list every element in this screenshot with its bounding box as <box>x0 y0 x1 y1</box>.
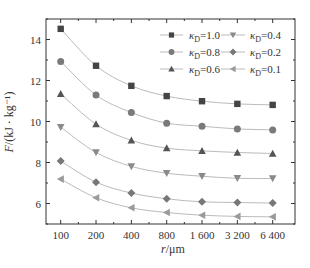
y-tick-label: 8 <box>36 157 42 169</box>
x-tick-label: 800 <box>158 229 175 241</box>
circle-marker-icon <box>93 92 100 99</box>
square-marker-icon <box>169 32 174 37</box>
series-markers <box>57 26 277 221</box>
circle-marker-icon <box>199 123 206 130</box>
legend: κD=1.0κD=0.8κD=0.6κD=0.4κD=0.2κD=0.1 <box>160 29 282 78</box>
x-tick-label: 100 <box>52 229 69 241</box>
x-tick-label: 3 200 <box>225 229 250 241</box>
legend-item: κD=0.2 <box>221 46 281 61</box>
legend-label: κD=0.8 <box>189 46 221 61</box>
triangle-left-marker-icon <box>163 209 170 217</box>
legend-label: κD=1.0 <box>189 29 221 44</box>
triangle-up-marker-icon <box>92 120 100 127</box>
square-marker-icon <box>234 101 240 107</box>
legend-item: κD=1.0 <box>160 29 221 44</box>
legend-item: κD=0.6 <box>160 63 221 78</box>
diamond-marker-icon <box>198 198 206 206</box>
y-tick-label: 6 <box>36 198 42 210</box>
circle-marker-icon <box>57 58 64 65</box>
square-marker-icon <box>93 63 99 69</box>
triangle-down-marker-icon <box>92 149 100 156</box>
square-marker-icon <box>58 26 64 32</box>
y-tick-label: 12 <box>30 75 41 87</box>
circle-marker-icon <box>269 126 276 133</box>
diamond-marker-icon <box>233 198 241 206</box>
diamond-marker-icon <box>269 199 277 207</box>
triangle-left-marker-icon <box>230 66 236 72</box>
triangle-left-marker-icon <box>92 194 99 202</box>
legend-label: κD=0.6 <box>189 63 221 78</box>
x-tick-label: 200 <box>88 229 105 241</box>
y-tick-label: 14 <box>30 34 42 46</box>
legend-label: κD=0.2 <box>250 46 281 61</box>
y-axis-label: F/(kJ · kg⁻¹) <box>2 92 16 154</box>
circle-marker-icon <box>128 109 135 116</box>
circle-marker-icon <box>163 120 170 127</box>
diamond-marker-icon <box>127 189 135 197</box>
diamond-marker-icon <box>230 49 237 56</box>
triangle-left-marker-icon <box>57 175 64 183</box>
square-marker-icon <box>199 98 205 104</box>
triangle-left-marker-icon <box>234 213 241 221</box>
x-axis-label: r/μm <box>161 242 185 256</box>
legend-item: κD=0.4 <box>221 29 282 44</box>
x-tick-label: 1 600 <box>190 229 215 241</box>
triangle-up-marker-icon <box>128 137 136 144</box>
triangle-left-marker-icon <box>269 213 276 221</box>
square-marker-icon <box>128 83 134 89</box>
legend-label: κD=0.4 <box>250 29 282 44</box>
square-marker-icon <box>269 102 275 108</box>
legend-item: κD=0.1 <box>221 63 281 78</box>
x-tick-label: 6 400 <box>260 229 285 241</box>
legend-item: κD=0.8 <box>160 46 221 61</box>
circle-marker-icon <box>169 49 175 55</box>
chart-canvas: 1002004008001 6003 2006 40068101214 κD=1… <box>0 0 310 268</box>
triangle-down-marker-icon <box>57 124 65 131</box>
y-tick-label: 10 <box>30 116 42 128</box>
triangle-left-marker-icon <box>198 211 205 219</box>
diamond-marker-icon <box>57 157 65 165</box>
circle-marker-icon <box>234 125 241 132</box>
legend-label: κD=0.1 <box>250 63 281 78</box>
line-chart: 1002004008001 6003 2006 40068101214 κD=1… <box>0 0 310 268</box>
triangle-up-marker-icon <box>57 90 65 97</box>
triangle-left-marker-icon <box>128 204 135 212</box>
diamond-marker-icon <box>92 178 100 186</box>
diamond-marker-icon <box>163 195 171 203</box>
square-marker-icon <box>163 93 169 99</box>
x-tick-label: 400 <box>123 229 140 241</box>
